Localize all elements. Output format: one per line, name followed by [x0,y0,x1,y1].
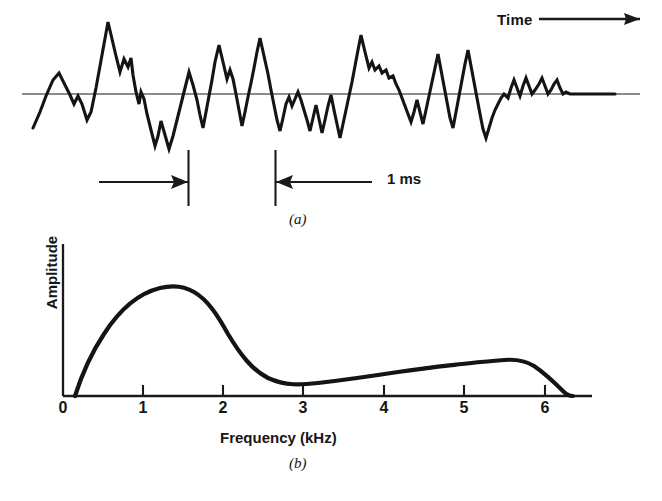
spectrum-xtick-label-6: 6 [533,400,557,416]
spectrum-y-axis-label: Amplitude [44,218,59,328]
spectrum-xtick-label-0: 0 [51,400,75,416]
spectrum-xtick-label-2: 2 [211,400,235,416]
panel-b-graphics [0,0,662,501]
spectrum-xtick-label-5: 5 [452,400,476,416]
spectrum-xtick-label-1: 1 [131,400,155,416]
spectrum-x-tick-marks [143,385,545,396]
figure-container: Time 1 ms (a) Amplitude 0 1 2 3 4 5 6 Fr… [0,0,662,501]
panel-b-caption: (b) [289,456,307,471]
spectrum-envelope-curve [75,286,573,396]
spectrum-xtick-label-3: 3 [291,400,315,416]
spectrum-x-axis-label: Frequency (kHz) [220,430,337,445]
spectrum-xtick-label-4: 4 [372,400,396,416]
